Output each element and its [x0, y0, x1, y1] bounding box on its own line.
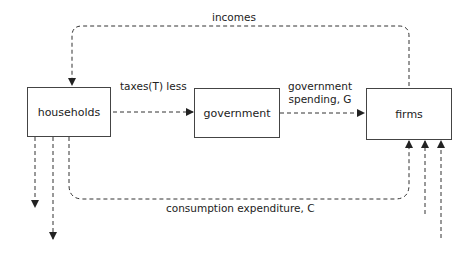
government-label: government: [203, 107, 270, 120]
consumption-label: consumption expenditure, C: [166, 202, 315, 215]
government-node: government: [194, 88, 280, 138]
incomes-label: incomes: [212, 11, 256, 24]
households-node: households: [27, 87, 111, 137]
taxes-label: taxes(T) less: [120, 80, 187, 93]
gov-spending-label: government spending, G: [288, 80, 352, 106]
incomes-arrow: [72, 26, 409, 86]
consumption-arrow: [69, 137, 409, 199]
firms-node: firms: [366, 88, 452, 140]
households-label: households: [38, 106, 101, 119]
firms-label: firms: [395, 108, 423, 121]
gov-spending-line2: spending, G: [288, 93, 352, 106]
gov-spending-line1: government: [288, 80, 352, 93]
